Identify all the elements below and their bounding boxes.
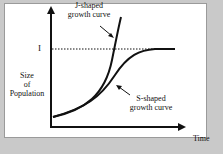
annotation-line: growth curve — [126, 103, 176, 112]
annotation-line: growth curve — [62, 10, 116, 19]
j-curve — [53, 17, 121, 117]
capacity-label: I — [38, 44, 41, 53]
y-axis-label: Size of Population — [4, 71, 50, 98]
y-label-line: Population — [4, 89, 50, 98]
x-axis-arrow-icon — [178, 123, 186, 131]
annotation-line: S-shaped — [126, 94, 176, 103]
j-curve-annotation: J-shaped growth curve — [62, 1, 116, 19]
s-pointer-arrow-icon — [116, 85, 122, 90]
annotation-line: J-shaped — [62, 1, 116, 10]
y-label-line: Size — [4, 71, 50, 80]
s-curve-annotation: S-shaped growth curve — [126, 94, 176, 112]
y-axis-arrow-icon — [47, 6, 55, 14]
x-axis-label: Time — [193, 134, 210, 143]
y-label-line: of — [4, 80, 50, 89]
